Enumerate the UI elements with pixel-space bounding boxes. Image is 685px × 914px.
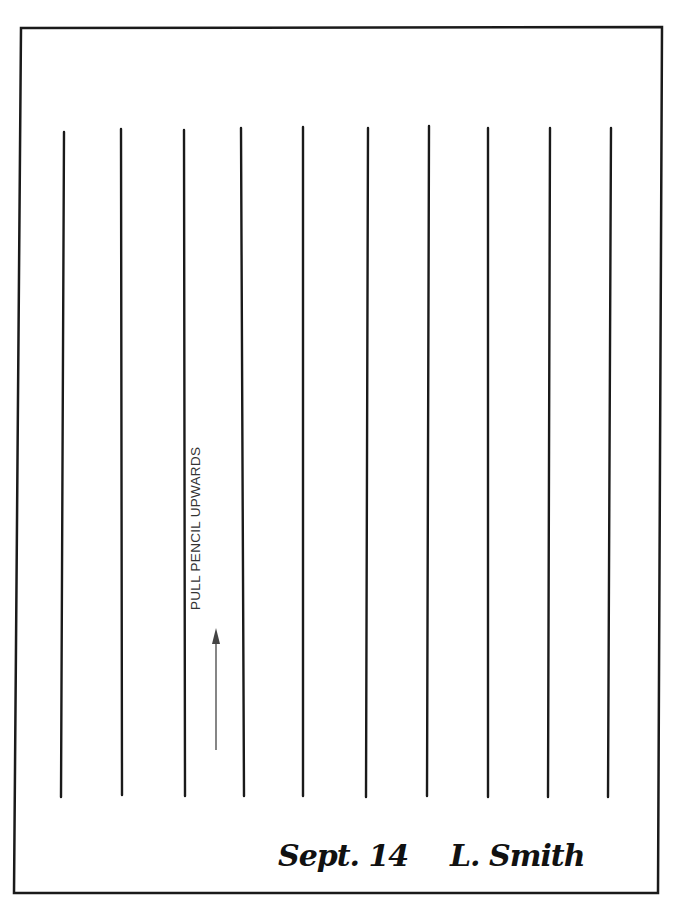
vertical-lines (61, 126, 611, 797)
ruled-sheet (0, 0, 685, 914)
document-page: PULL PENCIL UPWARDS Sept. 14 L. Smith (0, 0, 685, 914)
date-handwriting: Sept. 14 (278, 838, 408, 873)
up-arrow-icon (212, 628, 220, 750)
vertical-line (61, 132, 64, 797)
instruction-label: PULL PENCIL UPWARDS (188, 447, 203, 610)
vertical-line (241, 128, 244, 796)
vertical-line (608, 128, 611, 797)
signature-handwriting: L. Smith (450, 838, 584, 873)
vertical-line (184, 130, 185, 796)
vertical-line (121, 129, 122, 795)
vertical-line (427, 126, 429, 796)
page-frame (14, 27, 662, 893)
vertical-line (548, 128, 550, 797)
vertical-line (366, 128, 368, 797)
